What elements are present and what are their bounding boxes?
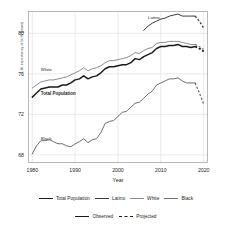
series-line-observed-total-population bbox=[32, 44, 195, 97]
x-tick-label: 2020 bbox=[192, 167, 216, 173]
legend-label: Observed bbox=[92, 214, 113, 219]
plot-svg bbox=[28, 11, 208, 163]
x-axis-title: Year bbox=[28, 177, 208, 183]
plot-area bbox=[28, 11, 208, 163]
legend-label: Black bbox=[181, 196, 193, 201]
legend-label: Latino bbox=[112, 196, 125, 201]
legend-entry-observed[interactable]: Observed bbox=[75, 214, 113, 219]
y-axis-title: Life expectancy at birth (years) bbox=[16, 0, 28, 121]
legend-entry-total-population[interactable]: Total Population bbox=[39, 196, 90, 201]
legend-swatch-icon bbox=[75, 216, 89, 217]
series-line-projected-black bbox=[195, 83, 204, 104]
annotation-total-population: Total Population bbox=[41, 91, 76, 96]
legend-swatch-icon bbox=[39, 198, 53, 199]
legend-swatch-icon bbox=[95, 198, 109, 199]
legend-swatch-icon bbox=[119, 216, 133, 217]
line-style-legend: ObservedProjected bbox=[0, 214, 232, 219]
x-tick-label: 2010 bbox=[149, 167, 173, 173]
legend-label: Projected bbox=[136, 214, 156, 219]
legend-entry-latino[interactable]: Latino bbox=[95, 196, 125, 201]
series-line-observed-black bbox=[32, 78, 195, 154]
x-tick-label: 2000 bbox=[106, 167, 130, 173]
annotation-black: Black bbox=[41, 136, 52, 141]
annotation-white: White bbox=[41, 67, 52, 72]
series-line-projected-latino bbox=[195, 16, 204, 28]
series-legend: Total PopulationLatinoWhiteBlack bbox=[0, 196, 232, 201]
legend-label: White bbox=[147, 196, 159, 201]
legend-entry-projected[interactable]: Projected bbox=[119, 214, 156, 219]
legend-entry-black[interactable]: Black bbox=[164, 196, 193, 201]
legend-entry-white[interactable]: White bbox=[130, 196, 159, 201]
series-line-observed-white bbox=[32, 41, 195, 88]
legend-swatch-icon bbox=[164, 198, 178, 199]
legend-swatch-icon bbox=[130, 198, 144, 199]
y-tick-label: 68 bbox=[6, 152, 24, 158]
life-expectancy-chart: Life expectancy at birth (years) 6872768… bbox=[0, 0, 232, 232]
x-tick-label: 1980 bbox=[20, 167, 44, 173]
x-tick-label: 1990 bbox=[63, 167, 87, 173]
legend-label: Total Population bbox=[56, 196, 90, 201]
annotation-latino: Latino bbox=[148, 15, 160, 20]
